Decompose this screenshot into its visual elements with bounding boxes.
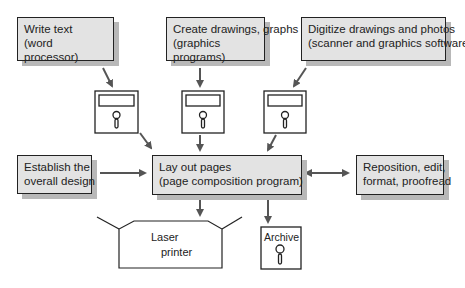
digitize-line1: Digitize drawings and photos [308, 22, 439, 36]
digitize-box: Digitize drawings and photos (scanner an… [301, 17, 446, 61]
reposition-line1: Reposition, edit, [363, 160, 437, 174]
establish-design-box: Establish the overall design [17, 155, 92, 194]
archive-label: Archive [264, 230, 299, 244]
create-drawings-line2: (graphics programs) [173, 36, 258, 64]
layout-line2: (page composition program) [159, 174, 295, 188]
layout-pages-box: Lay out pages (page composition program) [152, 155, 302, 195]
establish-line2: overall design [24, 174, 85, 188]
reposition-line2: format, proofread [363, 174, 437, 188]
write-text-box: Write text (word processor) [17, 17, 114, 61]
create-drawings-box: Create drawings, graphs (graphics progra… [166, 17, 265, 61]
floppy-disk-icon-2 [182, 91, 224, 133]
establish-line1: Establish the [24, 160, 85, 174]
printer-label-line2: printer [161, 245, 192, 259]
digitize-line2: (scanner and graphics software) [308, 36, 439, 50]
floppy-disk-icon-1 [95, 91, 138, 133]
layout-line1: Lay out pages [159, 160, 295, 174]
printer-label-line1: Laser [151, 230, 179, 244]
reposition-box: Reposition, edit, format, proofread [356, 155, 444, 195]
floppy-disk-icon-3 [264, 91, 306, 133]
create-drawings-line1: Create drawings, graphs [173, 22, 258, 36]
write-text-line2: (word processor) [24, 36, 107, 64]
write-text-line1: Write text [24, 22, 107, 36]
